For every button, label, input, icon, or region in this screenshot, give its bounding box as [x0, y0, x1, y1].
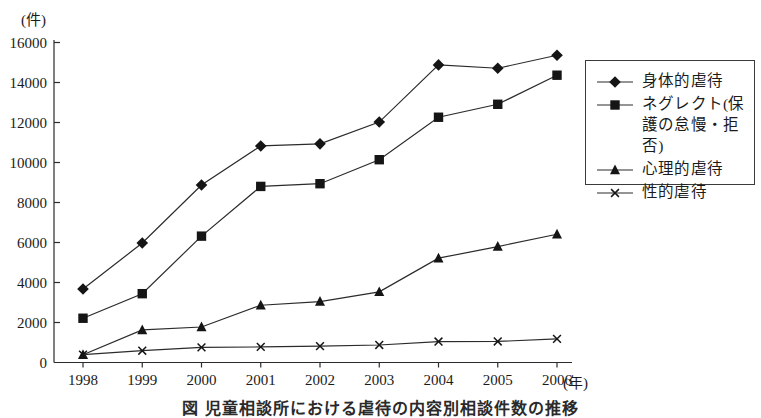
legend-item-physical-abuse: 身体的虐待: [595, 70, 750, 91]
chart-legend: 身体的虐待 ネグレクト(保護の怠慢・拒否) 心理的虐待 性的虐待: [585, 60, 755, 185]
svg-text:8000: 8000: [17, 195, 47, 211]
svg-text:14000: 14000: [10, 75, 48, 91]
svg-text:16000: 16000: [10, 35, 48, 51]
legend-label: ネグレクト(保護の怠慢・拒否): [642, 93, 750, 156]
legend-x-marker-icon: [595, 184, 635, 202]
legend-diamond-marker-icon: [595, 73, 635, 91]
legend-label: 身体的虐待: [642, 70, 750, 91]
legend-item-psychological-abuse: 心理的虐待: [595, 158, 750, 179]
svg-text:2004: 2004: [424, 372, 455, 388]
y-axis-unit-label: (件): [21, 8, 46, 29]
svg-text:6000: 6000: [17, 235, 47, 251]
x-axis-unit-label: (年): [563, 371, 588, 392]
legend-triangle-marker-icon: [595, 161, 635, 179]
svg-text:2002: 2002: [305, 372, 335, 388]
svg-text:12000: 12000: [10, 115, 48, 131]
svg-text:4000: 4000: [17, 275, 47, 291]
svg-text:2005: 2005: [483, 372, 513, 388]
svg-text:0: 0: [40, 355, 48, 371]
legend-item-sexual-abuse: 性的虐待: [595, 181, 750, 202]
legend-square-marker-icon: [595, 96, 635, 114]
svg-text:1998: 1998: [68, 372, 98, 388]
svg-text:1999: 1999: [127, 372, 157, 388]
svg-text:2003: 2003: [364, 372, 394, 388]
svg-text:2001: 2001: [246, 372, 276, 388]
svg-text:2000: 2000: [17, 315, 47, 331]
figure-caption: 図 児童相談所における虐待の内容別相談件数の推移: [0, 399, 761, 418]
legend-label: 心理的虐待: [642, 158, 750, 179]
legend-label: 性的虐待: [642, 181, 750, 202]
svg-text:10000: 10000: [10, 155, 48, 171]
legend-item-neglect: ネグレクト(保護の怠慢・拒否): [595, 93, 750, 156]
svg-text:2000: 2000: [187, 372, 217, 388]
